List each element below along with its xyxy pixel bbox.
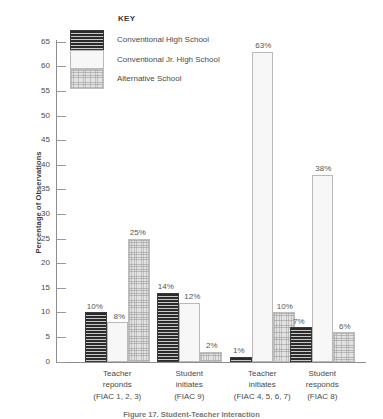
y-axis-tick-label: 50 xyxy=(28,111,50,120)
figure-caption: Figure 17. Student-Teacher Interaction xyxy=(0,410,383,419)
bar-group: 14%12%2% xyxy=(157,40,222,362)
x-axis-category-label: Studentresponds(FIAC 8) xyxy=(272,369,372,402)
y-axis-tick-label: 35 xyxy=(28,184,50,193)
y-axis-tick-label: 20 xyxy=(28,258,50,267)
bar xyxy=(290,327,312,362)
bar xyxy=(230,357,252,362)
category-line-1: Student xyxy=(308,369,336,378)
bar xyxy=(157,293,179,362)
bar xyxy=(252,52,274,362)
y-axis-tick-label: 45 xyxy=(28,135,50,144)
x-axis-line xyxy=(56,362,366,363)
y-axis-title: Percentage of Observations xyxy=(34,103,43,303)
y-axis-tick-label: 40 xyxy=(28,160,50,169)
category-line-1: Student xyxy=(175,369,203,378)
bar-group: 10%8%25% xyxy=(85,40,150,362)
category-line-2: responds xyxy=(272,380,372,391)
bar-value-label: 14% xyxy=(149,282,183,291)
bar xyxy=(179,303,201,362)
y-axis-tick-label: 25 xyxy=(28,234,50,243)
bar xyxy=(107,322,129,361)
y-axis-tick-label: 65 xyxy=(28,37,50,46)
bar-value-label: 25% xyxy=(121,228,155,237)
y-axis-tick-label: 55 xyxy=(28,86,50,95)
y-axis-tick-label: 10 xyxy=(28,307,50,316)
bar-value-label: 10% xyxy=(78,302,112,311)
bar-group: 1%63%10% xyxy=(230,40,295,362)
category-line-1: Teacher xyxy=(103,369,131,378)
bar-value-label: 1% xyxy=(222,346,256,355)
y-axis-tick-label: 5 xyxy=(28,332,50,341)
bar-value-label: 12% xyxy=(176,292,210,301)
y-axis-tick-label: 0 xyxy=(28,357,50,366)
y-axis-tick-label: 30 xyxy=(28,209,50,218)
plot-area: 10%8%25%14%12%2%1%63%10%7%38%6% xyxy=(56,40,366,362)
bar-value-label: 6% xyxy=(328,322,362,331)
category-fiac-code: (FIAC 8) xyxy=(272,392,372,403)
bar-value-label: 7% xyxy=(282,317,316,326)
y-axis-tick-label: 15 xyxy=(28,283,50,292)
y-axis-tick xyxy=(57,362,66,363)
y-axis-tick-label: 60 xyxy=(28,61,50,70)
bar-value-label: 38% xyxy=(307,164,341,173)
bar-group: 7%38%6% xyxy=(290,40,355,362)
legend-title: KEY xyxy=(118,14,135,23)
bar xyxy=(200,352,222,362)
bar xyxy=(128,239,150,362)
bar-value-label: 63% xyxy=(247,41,281,50)
bar xyxy=(312,175,334,362)
bar xyxy=(333,332,355,362)
